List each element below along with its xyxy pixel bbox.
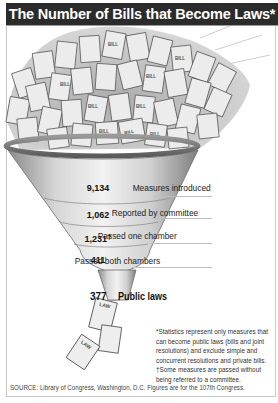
footnote-asterisk: *Statistics represent only measures that… xyxy=(156,327,278,365)
stage-label-passed-both: Passed both chambers xyxy=(74,255,160,266)
svg-text:BILL: BILL xyxy=(175,56,185,61)
svg-text:BILL: BILL xyxy=(60,82,70,87)
stage-label-passed-one: Passed one chamber xyxy=(98,230,177,241)
public-laws-label: Public laws xyxy=(118,291,167,302)
footnote-dagger: †Some measures are passed without being … xyxy=(156,365,278,384)
divider xyxy=(150,243,212,244)
divider xyxy=(160,196,212,197)
divider xyxy=(132,267,212,268)
title-bar: The Number of Bills that Become Laws* xyxy=(6,3,278,26)
public-laws-value: 377 xyxy=(90,291,107,302)
law-documents xyxy=(66,298,122,370)
stage-value-introduced: 9,134 xyxy=(68,183,128,193)
chart-title: The Number of Bills that Become Laws* xyxy=(6,3,278,25)
source-line: SOURCE: Library of Congress, Washington,… xyxy=(10,383,245,392)
divider xyxy=(152,218,212,219)
svg-text:BILL: BILL xyxy=(146,74,156,79)
stage-label-introduced: Measures introduced xyxy=(133,182,211,193)
footnotes: *Statistics represent only measures that… xyxy=(156,327,278,385)
svg-text:BILL: BILL xyxy=(136,104,146,109)
svg-text:BILL: BILL xyxy=(108,42,118,47)
stage-label-reported: Reported by committee xyxy=(112,207,198,218)
svg-text:BILL: BILL xyxy=(99,129,109,134)
svg-text:BILL: BILL xyxy=(88,104,98,109)
